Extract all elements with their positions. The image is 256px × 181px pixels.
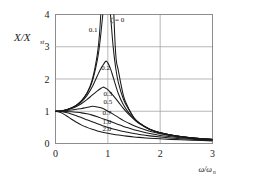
curve-label-2: 2.0 (102, 125, 111, 133)
y-tick-label: 4 (45, 9, 50, 20)
curve-label-0-7: 0.7 (102, 109, 111, 117)
x-tick-label: 0 (53, 148, 58, 159)
x-axis-title-subscript: n (213, 169, 216, 175)
curve-label-0-3: 0.3 (103, 90, 112, 98)
x-tick-label: 2 (158, 148, 163, 159)
plot-background (0, 0, 256, 181)
x-tick-label: 1 (105, 148, 110, 159)
figure-container: 0123 01234 X/X st ω/ω n ζ = 00.10.20.30.… (0, 0, 256, 181)
curve-label-0-1: 0.1 (89, 26, 98, 34)
y-axis-title-subscript: st (40, 38, 45, 45)
y-tick-label: 3 (45, 41, 50, 52)
y-tick-label: 1 (45, 106, 50, 117)
x-tick-label: 3 (210, 148, 215, 159)
x-axis-title-text: ω/ω (198, 165, 212, 174)
y-tick-label: 0 (45, 138, 50, 149)
curve-label-0-5: 0.5 (103, 98, 112, 106)
curve-label-0: ζ = 0 (110, 16, 124, 24)
y-axis-title-text: X/X (13, 31, 32, 43)
curve-label-0-2: 0.2 (101, 64, 110, 72)
y-tick-label: 2 (45, 74, 50, 85)
frequency-response-chart: 0123 01234 X/X st ω/ω n ζ = 00.10.20.30.… (0, 0, 256, 181)
